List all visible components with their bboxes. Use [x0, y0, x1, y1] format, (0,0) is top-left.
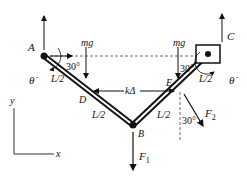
- label-axis-y: y: [9, 95, 15, 106]
- label-L2-d: L/2: [198, 73, 212, 84]
- label-angle-right: 30°: [180, 63, 194, 74]
- label-angle-f2: 30°: [182, 115, 196, 126]
- mechanism-diagram: A B C D E mg mg 30° 30° 30° θ̇ θ̇ L/2 L/…: [0, 0, 247, 181]
- label-axis-x: x: [55, 148, 61, 159]
- label-F1: F1: [138, 150, 150, 165]
- pin-B: [130, 122, 137, 129]
- label-L2-b: L/2: [91, 109, 105, 120]
- label-L2-a: L/2: [50, 73, 64, 84]
- label-B: B: [138, 128, 144, 139]
- label-mg-right: mg: [173, 37, 185, 48]
- pin-A: [41, 53, 48, 60]
- label-F2: F2: [204, 107, 216, 122]
- label-L2-c: L/2: [156, 109, 170, 120]
- label-theta-dot-right: θ̇: [229, 74, 238, 86]
- label-A: A: [27, 41, 35, 53]
- label-D: D: [78, 94, 87, 105]
- label-E: E: [165, 77, 172, 88]
- label-angle-left: 30°: [66, 61, 80, 72]
- label-mg-left: mg: [81, 37, 93, 48]
- label-C: C: [227, 30, 235, 42]
- label-spring-force: kΔ: [125, 85, 135, 96]
- label-theta-dot-left: θ̇: [29, 74, 38, 86]
